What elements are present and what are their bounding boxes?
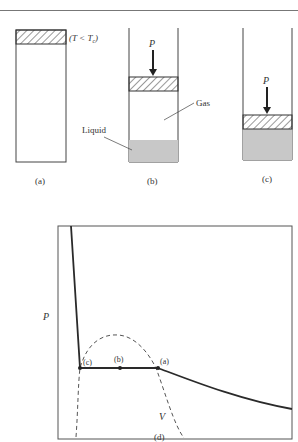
piston-c — [243, 115, 292, 129]
piston-b — [129, 77, 178, 91]
caption-d: (d) — [154, 432, 165, 442]
isotherm-curve — [71, 226, 292, 409]
point-label-b: (b) — [114, 355, 124, 364]
pressure-arrow-c — [263, 87, 271, 114]
x-axis-label: V — [159, 411, 167, 422]
gas-label: Gas — [196, 98, 210, 108]
y-axis-label: P — [42, 311, 49, 322]
point-c — [78, 366, 82, 370]
point-label-c: (c) — [83, 358, 92, 367]
liquid-c — [243, 129, 292, 160]
liquid-b — [129, 140, 178, 162]
caption-a: (a) — [35, 176, 45, 186]
point-b — [118, 366, 122, 370]
caption-c: (c) — [262, 174, 272, 184]
liquid-label: Liquid — [82, 125, 106, 135]
temperature-condition: (T < Tc) — [69, 33, 98, 44]
point-a — [156, 366, 160, 370]
gas-leader — [164, 103, 194, 120]
pressure-arrow-b — [149, 50, 157, 76]
liquid-leader — [104, 137, 132, 150]
pressure-label-c: P — [262, 75, 269, 86]
phase-diagram: (T < Tc) (a) P Gas Liquid (b) P (c) (c) … — [0, 0, 298, 442]
cylinder-a — [16, 30, 66, 162]
plot-frame — [58, 226, 292, 439]
coexistence-dashed-curve — [76, 335, 184, 438]
piston-a — [16, 30, 66, 44]
pressure-label-b: P — [148, 38, 155, 49]
caption-b: (b) — [147, 176, 158, 186]
point-label-a: (a) — [160, 357, 169, 366]
